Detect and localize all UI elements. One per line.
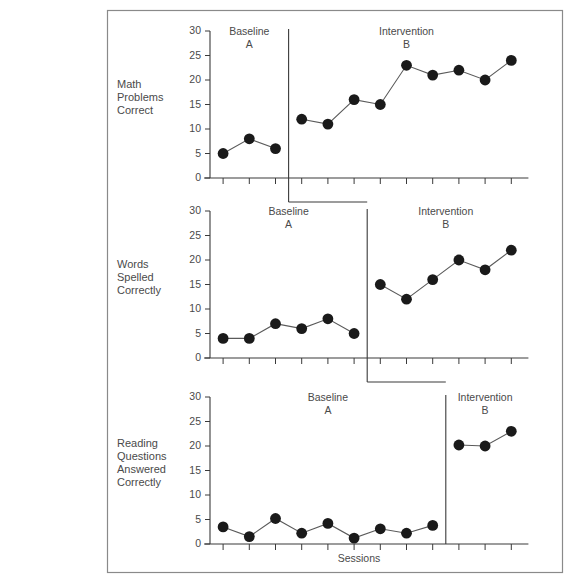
panel-label-line: Correct	[117, 104, 153, 116]
intervention-point	[401, 294, 412, 305]
baseline-point	[270, 143, 281, 154]
intervention-point	[296, 114, 307, 125]
phase-b-label: Intervention	[458, 391, 513, 403]
panel-label-line: Questions	[117, 450, 167, 462]
intervention-point	[401, 60, 412, 71]
intervention-point	[454, 255, 465, 266]
y-tick-label-25: 25	[189, 49, 201, 61]
y-tick-label-25: 25	[189, 415, 201, 427]
y-tick-label-5: 5	[195, 147, 201, 159]
baseline-point	[218, 333, 229, 344]
phase-a-label: Baseline	[308, 391, 348, 403]
y-tick-label-10: 10	[189, 488, 201, 500]
intervention-point	[480, 75, 491, 86]
baseline-point	[296, 528, 307, 539]
panel-label-line: Words	[117, 258, 149, 270]
panel-label-line: Math	[117, 78, 141, 90]
y-tick-label-30: 30	[189, 24, 201, 36]
intervention-point	[506, 55, 517, 66]
phase-b-label: Intervention	[418, 205, 473, 217]
intervention-point	[454, 440, 465, 451]
y-tick-label-0: 0	[195, 171, 201, 183]
baseline-point	[401, 528, 412, 539]
baseline-point	[349, 533, 360, 544]
y-tick-label-20: 20	[189, 73, 201, 85]
y-tick-label-30: 30	[189, 390, 201, 402]
baseline-point	[349, 328, 360, 339]
phase-b-letter: B	[442, 218, 449, 230]
phase-b-label: Intervention	[379, 25, 434, 37]
canvas-background	[0, 0, 572, 586]
intervention-point	[480, 264, 491, 275]
y-tick-label-15: 15	[189, 464, 201, 476]
intervention-point	[454, 65, 465, 76]
phase-a-label: Baseline	[268, 205, 308, 217]
y-tick-label-10: 10	[189, 122, 201, 134]
y-tick-label-0: 0	[195, 351, 201, 363]
y-tick-label-5: 5	[195, 513, 201, 525]
multiple-baseline-chart: 051015202530MathProblemsCorrectBaselineA…	[0, 0, 572, 586]
y-tick-label-0: 0	[195, 537, 201, 549]
panel-label-line: Reading	[117, 437, 158, 449]
intervention-point	[506, 426, 517, 437]
panel-label-line: Spelled	[117, 271, 154, 283]
baseline-point	[296, 323, 307, 334]
baseline-point	[218, 522, 229, 533]
intervention-point	[375, 279, 386, 290]
phase-b-letter: B	[482, 404, 489, 416]
baseline-point	[270, 318, 281, 329]
figure-root: 051015202530MathProblemsCorrectBaselineA…	[0, 0, 572, 586]
y-tick-label-10: 10	[189, 302, 201, 314]
baseline-point	[375, 523, 386, 534]
phase-b-letter: B	[403, 38, 410, 50]
baseline-point	[323, 518, 334, 529]
y-tick-label-5: 5	[195, 327, 201, 339]
baseline-point	[244, 133, 255, 144]
phase-a-letter: A	[324, 404, 331, 416]
phase-a-letter: A	[246, 38, 253, 50]
baseline-point	[323, 313, 334, 324]
panel-label-line: Correctly	[117, 284, 162, 296]
baseline-point	[244, 333, 255, 344]
baseline-point	[218, 148, 229, 159]
y-tick-label-15: 15	[189, 98, 201, 110]
y-tick-label-20: 20	[189, 253, 201, 265]
intervention-point	[480, 441, 491, 452]
intervention-point	[427, 70, 438, 81]
y-tick-label-25: 25	[189, 229, 201, 241]
panel-label-line: Answered	[117, 463, 166, 475]
panel-label-line: Problems	[117, 91, 164, 103]
phase-a-label: Baseline	[229, 25, 269, 37]
baseline-point	[427, 520, 438, 531]
phase-a-letter: A	[285, 218, 292, 230]
intervention-point	[427, 274, 438, 285]
intervention-point	[375, 99, 386, 110]
baseline-point	[270, 513, 281, 524]
intervention-point	[506, 245, 517, 256]
intervention-point	[349, 94, 360, 105]
x-axis-title: Sessions	[338, 552, 381, 564]
panel-label-line: Correctly	[117, 476, 162, 488]
y-tick-label-30: 30	[189, 204, 201, 216]
intervention-point	[323, 119, 334, 130]
y-tick-label-20: 20	[189, 439, 201, 451]
baseline-point	[244, 531, 255, 542]
y-tick-label-15: 15	[189, 278, 201, 290]
